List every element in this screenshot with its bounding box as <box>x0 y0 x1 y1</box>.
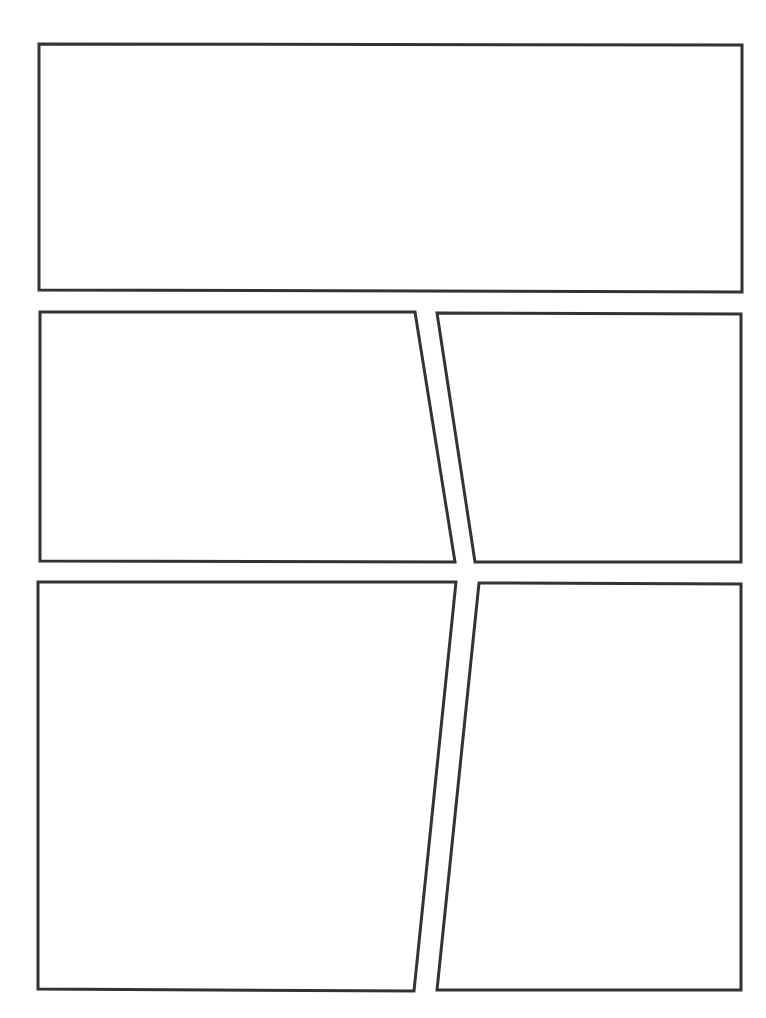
panel-3 <box>437 313 741 562</box>
panel-1 <box>39 44 742 292</box>
panel-4 <box>38 582 456 991</box>
panel-2 <box>40 312 455 562</box>
panel-5 <box>437 583 741 990</box>
comic-page <box>0 0 766 1018</box>
